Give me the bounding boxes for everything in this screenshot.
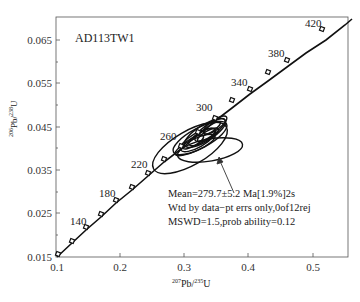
y-axis-label: 206Pb/238U [8,100,19,137]
svg-text:260: 260 [160,130,177,142]
svg-text:0.025: 0.025 [27,207,52,219]
svg-text:0.2: 0.2 [113,261,127,273]
sample-title: AD113TW1 [75,31,135,45]
svg-text:0.055: 0.055 [27,77,52,89]
y-axis-ticks [56,40,60,235]
svg-text:0.1: 0.1 [50,261,64,273]
svg-text:Mean=279.7±5.2 Ma[1.9%]2s: Mean=279.7±5.2 Ma[1.9%]2s [168,188,295,199]
y-axis-tick-labels: 0.065 0.055 0.045 0.035 0.025 0.015 [27,34,52,263]
svg-text:0.035: 0.035 [27,164,52,176]
svg-text:Wtd by data−pt errs only,0of12: Wtd by data−pt errs only,0of12rej [168,202,311,213]
svg-text:340: 340 [231,76,248,88]
svg-text:0.015: 0.015 [27,251,52,263]
svg-text:0.4: 0.4 [241,261,255,273]
svg-text:0.3: 0.3 [177,261,191,273]
x-axis-label: 207Pb/235U [172,278,211,289]
svg-text:0.045: 0.045 [27,121,52,133]
svg-text:220: 220 [131,158,148,170]
svg-text:0.065: 0.065 [27,34,52,46]
x-axis-tick-labels: 0.1 0.2 0.3 0.4 0.5 [50,261,320,273]
svg-text:0.5: 0.5 [306,261,320,273]
svg-text:180: 180 [99,187,116,199]
svg-text:300: 300 [196,101,213,113]
svg-text:380: 380 [268,47,285,59]
svg-text:140: 140 [70,215,87,227]
x-axis-ticks [120,253,313,257]
error-ellipses [145,112,244,183]
mean-age-annotation: Mean=279.7±5.2 Ma[1.9%]2s Wtd by data−pt… [168,188,311,227]
svg-text:420: 420 [305,17,322,29]
concordia-chart: 0.065 0.055 0.045 0.035 0.025 0.015 0.1 … [0,0,360,302]
svg-text:MSWD=1.5,prob ability=0.12: MSWD=1.5,prob ability=0.12 [168,216,295,227]
